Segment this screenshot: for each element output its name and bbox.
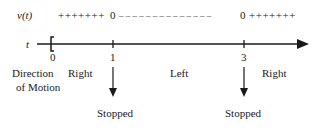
stopped-label-at-1: Stopped xyxy=(97,107,133,119)
tick-label-3: 3 xyxy=(241,51,247,63)
arrow-down-icon xyxy=(240,88,248,97)
tick-label-0: 0 xyxy=(50,51,56,63)
number-line xyxy=(0,0,319,128)
arrow-right-icon xyxy=(297,39,309,49)
direction-label-line1: Direction xyxy=(12,67,54,79)
stopped-label-at-3: Stopped xyxy=(225,107,261,119)
direction-label-line2: of Motion xyxy=(16,81,60,93)
direction-right-0-1: Right xyxy=(68,67,92,79)
direction-left-1-3: Left xyxy=(170,67,188,79)
arrow-down-icon xyxy=(109,88,117,97)
tick-label-1: 1 xyxy=(110,51,116,63)
direction-right-3-inf: Right xyxy=(262,67,286,79)
